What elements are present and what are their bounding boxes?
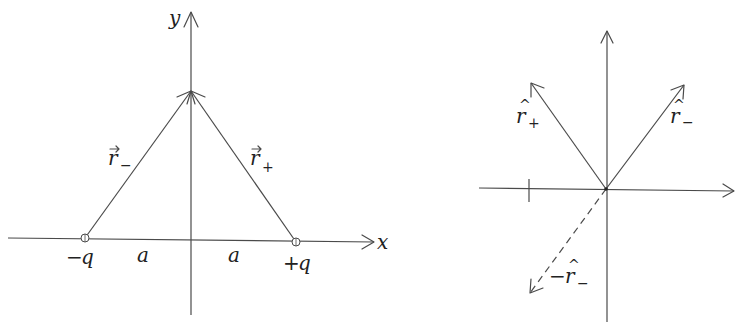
svg-text:+: +	[528, 115, 540, 131]
unit-r-minus-label: r ^ −	[670, 97, 694, 130]
vector-r-minus-label: r −	[108, 146, 132, 173]
right-diagram: r ^ + r ^ − − r ^ −	[479, 31, 734, 322]
svg-text:^: ^	[673, 97, 685, 113]
svg-text:−: −	[549, 264, 566, 288]
unit-r-plus-label: r ^ +	[516, 97, 540, 131]
left-diagram: y x − q + q a a r − r +	[8, 6, 388, 315]
neg-unit-r-minus-label: − r ^ −	[549, 257, 589, 291]
distance-label-left: a	[137, 243, 149, 267]
unit-vector-r-plus	[531, 83, 606, 189]
svg-text:q: q	[81, 245, 94, 269]
distance-label-right: a	[228, 243, 240, 267]
svg-text:−: −	[577, 275, 589, 291]
vector-r-plus	[191, 91, 296, 242]
svg-text:−: −	[682, 114, 694, 130]
charge-positive-icon	[292, 238, 300, 246]
origin-dot	[604, 187, 608, 191]
charge-negative-icon	[81, 234, 89, 242]
svg-text:^: ^	[519, 97, 531, 113]
vector-r-minus	[85, 91, 191, 238]
svg-text:+: +	[262, 159, 274, 175]
charge-positive-label: + q	[283, 251, 311, 275]
x-axis-label: x	[377, 230, 388, 254]
svg-text:−: −	[120, 157, 132, 173]
vector-r-plus-label: r +	[250, 146, 274, 175]
svg-text:^: ^	[568, 257, 580, 273]
electric-dipole-diagram: y x − q + q a a r − r +	[0, 0, 738, 328]
charge-negative-label: − q	[66, 245, 94, 269]
svg-text:q: q	[298, 251, 311, 275]
y-axis-label: y	[168, 6, 181, 30]
